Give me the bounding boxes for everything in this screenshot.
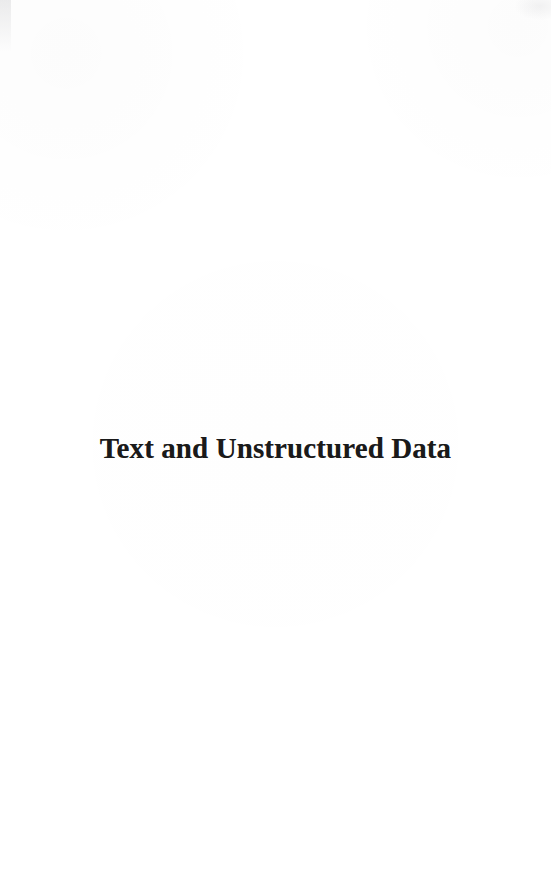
scanned-page: Text and Unstructured Data bbox=[0, 0, 551, 888]
scan-artifact-left-edge bbox=[0, 0, 11, 52]
part-title-block: Text and Unstructured Data bbox=[0, 432, 551, 464]
page-title: Text and Unstructured Data bbox=[0, 432, 551, 464]
scan-artifact-top-right-corner bbox=[515, 0, 551, 20]
